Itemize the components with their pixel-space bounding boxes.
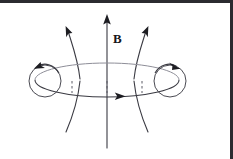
left-ring-group <box>29 62 61 97</box>
dashed-segments-group <box>72 81 142 93</box>
right-ring-group <box>154 63 186 97</box>
left-lower-field-line <box>66 81 80 132</box>
left-field-lines-group <box>66 26 80 132</box>
right-field-lines-group <box>134 26 148 132</box>
left-upper-field-line <box>68 31 80 79</box>
right-ring-arrow-icon <box>169 63 180 70</box>
field-label-b: B <box>113 32 122 45</box>
right-ring-circle <box>154 65 186 97</box>
right-lower-field-line <box>134 81 148 132</box>
figure-root: B <box>0 0 233 159</box>
right-upper-field-line <box>134 31 146 79</box>
current-direction-arrow-icon <box>115 93 126 100</box>
magnetic-field-diagram-canvas <box>0 0 233 159</box>
